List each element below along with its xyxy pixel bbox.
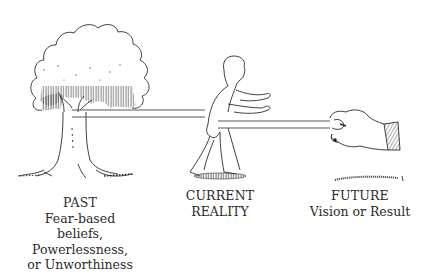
caption-past-line: Powerlessness, xyxy=(20,242,140,258)
caption-past-title: PAST xyxy=(20,195,140,211)
caption-past-line: or Unworthiness xyxy=(20,257,140,273)
caption-current: CURRENT REALITY xyxy=(165,188,275,219)
tree-icon xyxy=(18,25,149,178)
caption-current-line: REALITY xyxy=(165,204,275,220)
caption-current-title: CURRENT xyxy=(165,188,275,204)
caption-past-line: Fear-based beliefs, xyxy=(20,211,140,242)
band xyxy=(72,110,330,128)
caption-past: PAST Fear-based beliefs, Powerlessness, … xyxy=(20,195,140,273)
caption-future-line: Vision or Result xyxy=(300,204,420,220)
hand-icon xyxy=(330,110,403,181)
man-icon xyxy=(190,56,270,179)
caption-future-title: FUTURE xyxy=(300,188,420,204)
caption-future: FUTURE Vision or Result xyxy=(300,188,420,219)
